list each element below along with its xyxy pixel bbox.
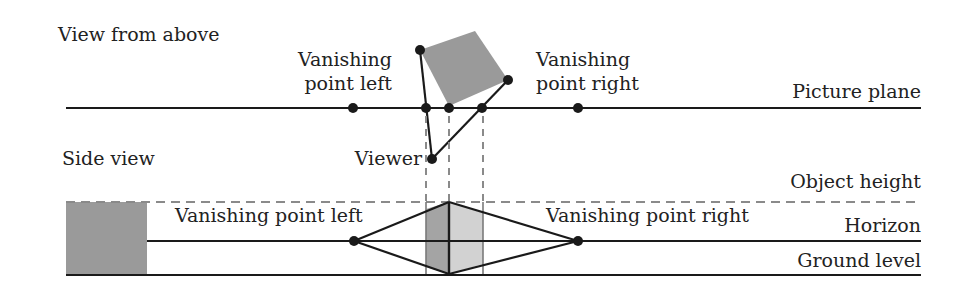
side-vp-right-dot (573, 236, 583, 246)
side-vp-left-dot (349, 236, 359, 246)
vp-left-label-line1: Vanishing (297, 48, 392, 70)
viewer-dot (427, 154, 437, 164)
viewer-label: Viewer (354, 147, 423, 169)
vp-left-label-line2: point left (304, 72, 392, 94)
horizon-label: Horizon (844, 214, 921, 236)
perspective-diagram: View from above Picture plane Vanishing … (0, 0, 970, 296)
top-view-title: View from above (57, 23, 220, 45)
ground-level-label: Ground level (797, 249, 921, 271)
side-vp-left-label: Vanishing point left (174, 204, 363, 226)
side-vp-right-label: Vanishing point right (545, 204, 749, 226)
picture-plane-label: Picture plane (792, 80, 921, 102)
side-view-title: Side view (62, 147, 156, 169)
cube-face-right (449, 202, 483, 274)
object-side-view (66, 202, 147, 275)
vp-right-label-line1: Vanishing (535, 48, 630, 70)
cube-face-left (426, 202, 449, 274)
vp-right-dot (573, 103, 583, 113)
vp-right-label-line2: point right (536, 72, 639, 94)
vp-left-dot (348, 103, 358, 113)
object-height-label: Object height (790, 170, 921, 192)
